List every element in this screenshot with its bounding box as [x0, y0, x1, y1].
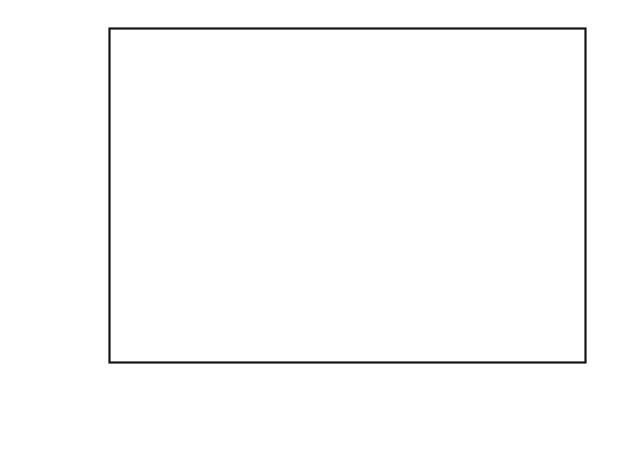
figure-container	[0, 0, 637, 458]
chart-plot	[0, 0, 637, 458]
plot-frame	[110, 29, 586, 363]
